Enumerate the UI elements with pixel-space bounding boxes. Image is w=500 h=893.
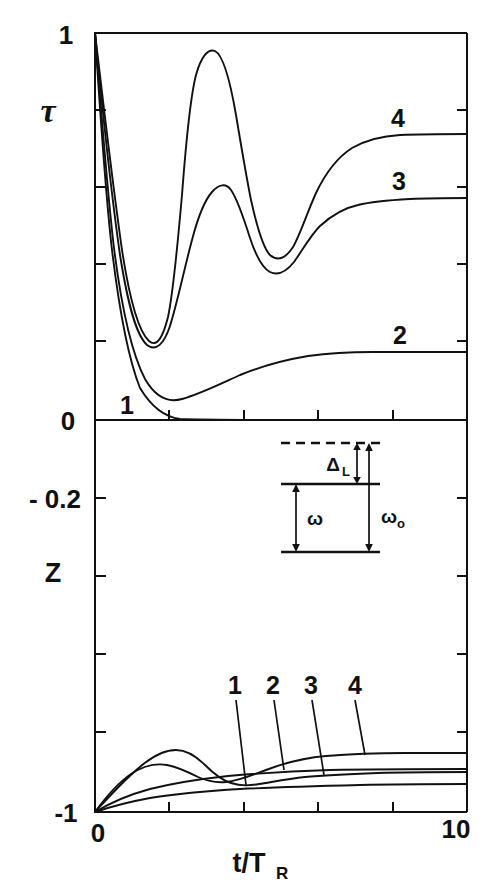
top-y-axis-title: τ <box>40 92 56 129</box>
top-curve-3 <box>95 33 467 348</box>
bottom-panel-right-ticks <box>457 498 467 732</box>
bottom-panel-x-ticks <box>169 802 393 812</box>
bottom-panel-y-ticks <box>95 498 106 732</box>
bottom-curve-4 <box>95 753 467 812</box>
inset-delta-sub: L <box>342 464 350 479</box>
inset-omega-arrow-head-up <box>292 484 300 492</box>
bottom-y-label-neg1: -1 <box>54 798 77 828</box>
bottom-leader-2 <box>274 700 284 770</box>
top-panel-x-ticks <box>169 410 393 420</box>
inset-omega0-sub: o <box>397 516 405 531</box>
top-curve-label-4: 4 <box>391 104 405 132</box>
chart-svg: 1 0 τ 1 2 3 4 <box>0 0 500 893</box>
x-axis-label-10: 10 <box>442 814 471 844</box>
top-y-label-1: 1 <box>59 20 73 50</box>
bottom-curve-label-1: 1 <box>228 671 242 699</box>
top-curve-label-2: 2 <box>393 321 407 349</box>
x-axis-label-0: 0 <box>91 818 105 848</box>
inset-omega-label: ω <box>307 508 323 529</box>
inset-omega0-arrow-head-up <box>365 443 373 451</box>
bottom-y-label-neg0_2: - 0.2 <box>29 484 81 514</box>
top-curve-2 <box>95 33 467 400</box>
figure-container: 1 0 τ 1 2 3 4 <box>0 0 500 893</box>
x-axis-title-main: t/T <box>233 848 266 878</box>
top-curve-label-1: 1 <box>120 391 134 419</box>
x-axis-title-sub: R <box>276 864 288 883</box>
bottom-leader-4 <box>355 700 365 755</box>
bottom-curve-label-2: 2 <box>266 671 280 699</box>
inset-delta-label: Δ <box>326 454 340 475</box>
top-panel-right-ticks <box>457 110 467 341</box>
bottom-curve-3 <box>95 750 467 812</box>
bottom-leader-1 <box>236 700 246 785</box>
top-curve-4 <box>95 33 467 343</box>
top-y-label-0: 0 <box>61 406 75 436</box>
bottom-y-axis-title: Z <box>45 558 62 588</box>
bottom-curve-label-3: 3 <box>304 671 318 699</box>
x-axis-title: t/T R <box>233 848 289 883</box>
inset-omega0-label: ω <box>381 506 397 527</box>
bottom-curve-label-4: 4 <box>348 671 362 699</box>
bottom-leader-3 <box>312 700 324 775</box>
top-curve-label-3: 3 <box>392 167 406 195</box>
bottom-curve-2 <box>95 769 467 812</box>
inset-energy-level-diagram: Δ L ω ω o <box>281 443 405 552</box>
